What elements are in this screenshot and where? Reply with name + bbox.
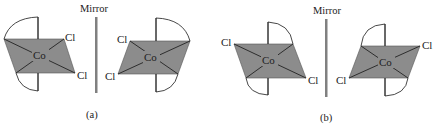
chelate-ring-bottom bbox=[16, 73, 38, 91]
chelate-ring-bottom bbox=[246, 78, 268, 95]
mirror-plane-line bbox=[325, 19, 328, 97]
cobalt-atom-label: Co bbox=[379, 56, 392, 68]
panel-b: Co Cl Cl Mirror Co Cl Cl (b) bbox=[221, 5, 432, 124]
panel-b-left-molecule: Co Cl Cl bbox=[221, 22, 318, 95]
cobalt-atom-label: Co bbox=[33, 49, 46, 61]
chelate-ring-top bbox=[156, 18, 190, 41]
mirror-image-isomers-figure: Co Cl Cl Mirror Co Cl Cl (a) bbox=[0, 0, 436, 127]
chlorine-label-upper: Cl bbox=[117, 33, 127, 45]
cobalt-atom-label: Co bbox=[262, 54, 275, 66]
chlorine-label-upper: Cl bbox=[422, 39, 432, 51]
panel-a-right-molecule: Co Cl Cl bbox=[105, 18, 190, 92]
chlorine-label-lower: Cl bbox=[336, 74, 346, 86]
chlorine-label-upper: Cl bbox=[221, 36, 231, 48]
panel-a: Co Cl Cl Mirror Co Cl Cl (a) bbox=[4, 3, 190, 121]
chelate-ring-bottom bbox=[385, 78, 408, 96]
panel-caption: (b) bbox=[320, 112, 333, 124]
mirror-plane-line bbox=[95, 17, 98, 93]
cobalt-atom-label: Co bbox=[144, 51, 157, 63]
chelate-ring-top bbox=[268, 22, 293, 44]
panel-caption: (a) bbox=[86, 109, 98, 121]
chlorine-label-lower: Cl bbox=[105, 70, 115, 82]
panel-b-right-molecule: Co Cl Cl bbox=[336, 24, 432, 96]
panel-a-left-molecule: Co Cl Cl bbox=[4, 17, 87, 91]
chlorine-label-lower: Cl bbox=[77, 69, 87, 81]
mirror-label: Mirror bbox=[313, 5, 341, 16]
chlorine-label-upper: Cl bbox=[65, 31, 75, 43]
chelate-ring-bottom bbox=[156, 74, 178, 92]
chlorine-label-lower: Cl bbox=[308, 74, 318, 86]
mirror-label: Mirror bbox=[80, 3, 108, 14]
chelate-ring-top bbox=[4, 17, 38, 39]
chelate-ring-top bbox=[361, 24, 385, 46]
